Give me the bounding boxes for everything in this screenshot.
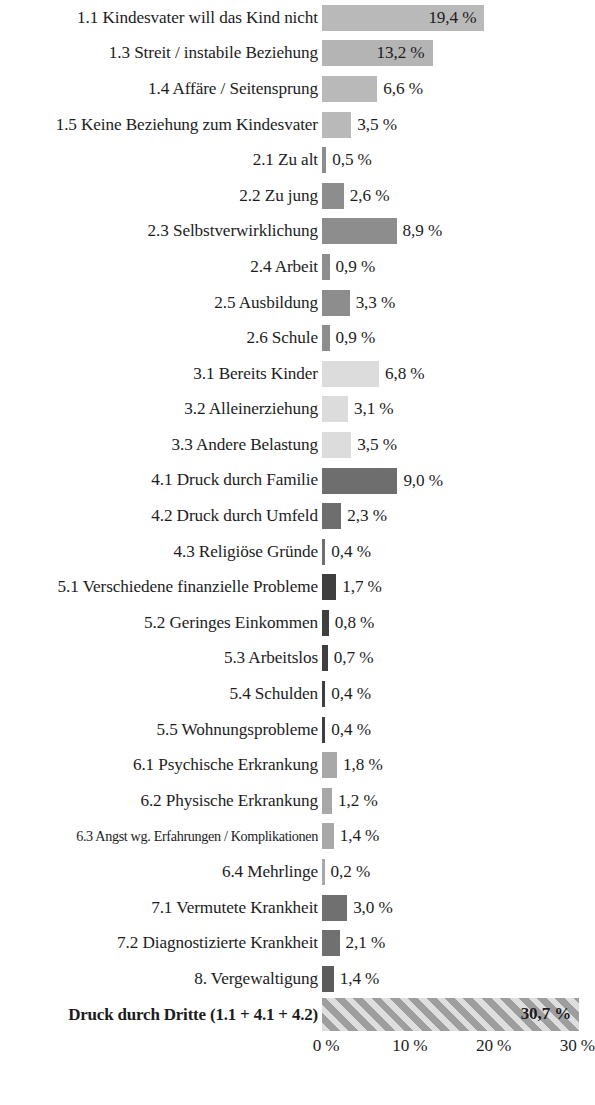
bar-row: 1.4 Affäre / Seitensprung6,6 %: [0, 71, 590, 107]
bar-value-label: 8,9 %: [397, 221, 443, 241]
bar-value-label: 2,6 %: [344, 186, 390, 206]
bar-value-label: 3,0 %: [347, 898, 393, 918]
bar-value-label: 1,4 %: [334, 826, 380, 846]
bar-plot-area: 13,2 %: [322, 36, 590, 72]
bar-category-label: 7.1 Vermutete Krankheit: [0, 899, 322, 917]
bar-row: 7.1 Vermutete Krankheit3,0 %: [0, 890, 590, 926]
bar-value-label: 1,8 %: [337, 755, 383, 775]
bar-row: 1.3 Streit / instabile Beziehung13,2 %: [0, 36, 590, 72]
bar-row-total: Druck durch Dritte (1.1 + 4.1 + 4.2)30,7…: [0, 997, 590, 1033]
bar-row: 3.2 Alleinerziehung3,1 %: [0, 392, 590, 428]
bar: [322, 361, 379, 387]
bar-rows: 1.1 Kindesvater will das Kind nicht19,4 …: [0, 0, 590, 1032]
bar-row: 5.2 Geringes Einkommen0,8 %: [0, 605, 590, 641]
bar-value-label: 1,7 %: [336, 577, 382, 597]
bar: [322, 396, 348, 422]
bar-value-label: 6,6 %: [377, 79, 423, 99]
bar: [322, 610, 329, 636]
bar-plot-area: 1,7 %: [322, 570, 590, 606]
bar-plot-area: 0,4 %: [322, 712, 590, 748]
bar-category-label: 3.2 Alleinerziehung: [0, 400, 322, 418]
bar-category-label: 7.2 Diagnostizierte Krankheit: [0, 934, 322, 952]
bar-plot-area: 0,2 %: [322, 854, 590, 890]
bar-value-label: 0,9 %: [330, 257, 376, 277]
bar-value-label: 0,8 %: [329, 613, 375, 633]
bar-row: 2.3 Selbstverwirklichung8,9 %: [0, 214, 590, 250]
bar: [322, 895, 347, 921]
bar-plot-area: 3,5 %: [322, 107, 590, 143]
bar: [322, 503, 341, 529]
bar-row: 1.1 Kindesvater will das Kind nicht19,4 …: [0, 0, 590, 36]
bar-category-label: 2.1 Zu alt: [0, 151, 322, 169]
x-axis: 0 %10 %20 %30 %: [322, 1032, 590, 1066]
bar-value-label: 9,0 %: [397, 471, 443, 491]
bar-category-label: 1.4 Affäre / Seitensprung: [0, 80, 322, 98]
bar-category-label: 5.4 Schulden: [0, 685, 322, 703]
bar-category-label: 6.3 Angst wg. Erfahrungen / Komplikation…: [0, 829, 322, 844]
bar-category-label: 1.5 Keine Beziehung zum Kindesvater: [0, 116, 322, 134]
bar-plot-area: 2,3 %: [322, 498, 590, 534]
bar-plot-area: 3,0 %: [322, 890, 590, 926]
bar-plot-area: 0,9 %: [322, 320, 590, 356]
bar-value-label: 13,2 %: [322, 43, 433, 63]
bar-category-label: 2.5 Ausbildung: [0, 294, 322, 312]
bar-value-label: 19,4 %: [322, 8, 484, 28]
bar-category-label: 1.3 Streit / instabile Beziehung: [0, 44, 322, 62]
bar-plot-area: 9,0 %: [322, 463, 590, 499]
bar-value-label: 0,7 %: [328, 648, 374, 668]
bar-row: 2.2 Zu jung2,6 %: [0, 178, 590, 214]
bar-row: 4.1 Druck durch Familie9,0 %: [0, 463, 590, 499]
bar-row: 5.5 Wohnungsprobleme0,4 %: [0, 712, 590, 748]
bar-category-label: 5.2 Geringes Einkommen: [0, 614, 322, 632]
bar-category-label: 5.1 Verschiedene finanzielle Probleme: [0, 578, 322, 596]
bar-category-label: 2.2 Zu jung: [0, 187, 322, 205]
bar-plot-area: 0,5 %: [322, 142, 590, 178]
bar-value-label: 3,1 %: [348, 399, 394, 419]
bar-plot-area: 1,4 %: [322, 819, 590, 855]
bar-category-label: 3.3 Andere Belastung: [0, 436, 322, 454]
bar-category-label: 1.1 Kindesvater will das Kind nicht: [0, 9, 322, 27]
bar: [322, 76, 377, 102]
bar-row: 1.5 Keine Beziehung zum Kindesvater3,5 %: [0, 107, 590, 143]
bar-row: 5.3 Arbeitslos0,7 %: [0, 641, 590, 677]
bar-value-label: 2,1 %: [340, 933, 386, 953]
bar-row: 4.2 Druck durch Umfeld2,3 %: [0, 498, 590, 534]
bar-value-label: 2,3 %: [341, 506, 387, 526]
axis-tick-label: 20 %: [476, 1036, 511, 1056]
bar-plot-area: 0,4 %: [322, 676, 590, 712]
bar-value-label: 0,4 %: [325, 720, 371, 740]
bar-value-label: 1,2 %: [332, 791, 378, 811]
bar-value-label: 6,8 %: [379, 364, 425, 384]
bar-value-label: 3,5 %: [351, 435, 397, 455]
bar-category-label: 8. Vergewaltigung: [0, 970, 322, 988]
bar-plot-area: 30,7 %: [322, 997, 590, 1033]
bar-row: 8. Vergewaltigung1,4 %: [0, 961, 590, 997]
bar-category-label: 6.2 Physische Erkrankung: [0, 792, 322, 810]
bar-row: 2.1 Zu alt0,5 %: [0, 142, 590, 178]
bar-row: 5.1 Verschiedene finanzielle Probleme1,7…: [0, 570, 590, 606]
bar-row: 7.2 Diagnostizierte Krankheit2,1 %: [0, 925, 590, 961]
bar-row: 2.5 Ausbildung3,3 %: [0, 285, 590, 321]
bar-plot-area: 2,6 %: [322, 178, 590, 214]
bar-value-label: 0,4 %: [325, 542, 371, 562]
bar-category-label: 6.4 Mehrlinge: [0, 863, 322, 881]
bar-row: 6.3 Angst wg. Erfahrungen / Komplikation…: [0, 819, 590, 855]
bar-category-label: 4.2 Druck durch Umfeld: [0, 507, 322, 525]
bar-plot-area: 0,4 %: [322, 534, 590, 570]
bar-category-label: 3.1 Bereits Kinder: [0, 365, 322, 383]
bar: [322, 432, 351, 458]
bar-plot-area: 1,4 %: [322, 961, 590, 997]
bar-plot-area: 3,3 %: [322, 285, 590, 321]
bar-category-label: 5.5 Wohnungsprobleme: [0, 721, 322, 739]
bar-row: 3.1 Bereits Kinder6,8 %: [0, 356, 590, 392]
axis-tick-label: 30 %: [560, 1036, 595, 1056]
bar-row: 4.3 Religiöse Gründe0,4 %: [0, 534, 590, 570]
bar: [322, 752, 337, 778]
bar-category-label: 6.1 Psychische Erkrankung: [0, 756, 322, 774]
bar: [322, 823, 334, 849]
bar: [322, 183, 344, 209]
bar-value-label: 30,7 %: [322, 1004, 579, 1024]
bar-value-label: 1,4 %: [334, 969, 380, 989]
bar-category-label: 2.3 Selbstverwirklichung: [0, 222, 322, 240]
